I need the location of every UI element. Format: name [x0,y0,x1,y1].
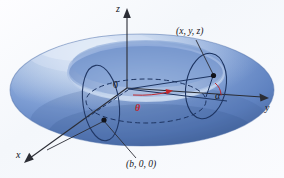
x-axis-arrowhead [24,153,34,163]
theta-label: θ [135,103,140,113]
z-axis-arrowhead [123,8,131,18]
x-axis-label: x [16,150,20,160]
z-axis-label: z [116,4,120,14]
torus-diagram-svg [0,0,284,178]
y-axis-label: y [265,103,269,113]
torus-inner-far-wall-2 [72,40,220,88]
surface-point-label: (x, y, z) [176,27,203,37]
torus-surface [10,22,274,164]
alpha-label: α [215,91,220,101]
b-point-label: (b, 0, 0) [126,160,156,170]
origin-label: 0 [113,80,118,90]
b-point-marker [101,117,106,122]
surface-point-marker [211,73,216,78]
torus-figure: z y x 0 (x, y, z) (b, 0, 0) θ α [0,0,284,178]
